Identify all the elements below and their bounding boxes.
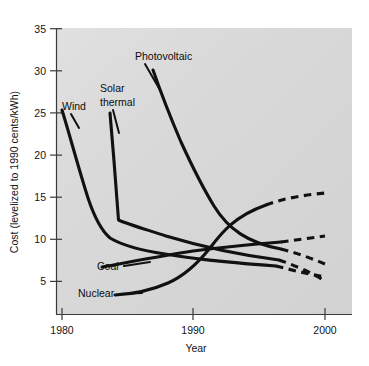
y-tick-label-10: 10 (34, 233, 46, 245)
series-label-nuclear: Nuclear (78, 287, 115, 299)
series-label-solar-thermal-line2: thermal (100, 96, 135, 108)
y-tick-label-15: 15 (34, 191, 46, 203)
y-tick-label-20: 20 (34, 149, 46, 161)
chart-figure: 35 30 25 20 15 10 5 1980 1990 2000 Year … (0, 0, 369, 366)
chart-svg: 35 30 25 20 15 10 5 1980 1990 2000 Year … (0, 0, 369, 366)
y-tick-label-30: 30 (34, 65, 46, 77)
y-tick-label-5: 5 (40, 275, 46, 287)
x-tick-label-2000: 2000 (313, 324, 337, 336)
x-tick-label-1980: 1980 (50, 324, 74, 336)
series-label-photovoltaic: Photovoltaic (135, 50, 192, 62)
x-axis-title: Year (185, 342, 207, 354)
series-label-wind: Wind (62, 100, 86, 112)
leader-line-nuclear (120, 293, 142, 294)
series-label-solar-thermal-line1: Solar (100, 82, 125, 94)
series-label-coal: Coal (97, 260, 119, 272)
y-tick-label-25: 25 (34, 107, 46, 119)
y-tick-label-35: 35 (34, 23, 46, 35)
x-tick-label-1990: 1990 (181, 324, 205, 336)
y-axis-title: Cost (levelized to 1990 cents/kWh) (8, 91, 20, 253)
